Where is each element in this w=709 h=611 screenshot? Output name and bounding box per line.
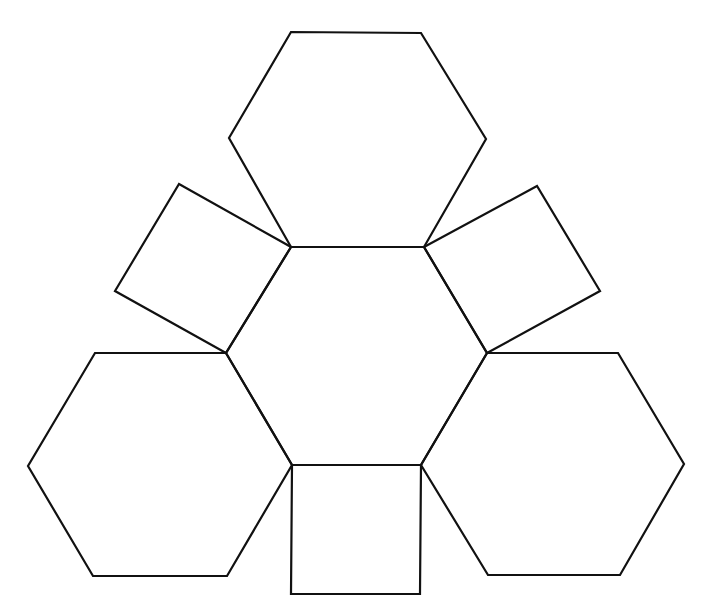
- upper-right-square: [424, 186, 600, 353]
- bottom-square: [291, 465, 421, 594]
- left-hexagon: [28, 353, 292, 576]
- upper-left-square: [115, 184, 291, 353]
- top-hexagon: [229, 32, 486, 247]
- polyhedron-net-diagram: [0, 0, 709, 611]
- center-hexagon: [226, 247, 487, 465]
- right-hexagon: [421, 353, 684, 575]
- net-drawing: [0, 0, 709, 611]
